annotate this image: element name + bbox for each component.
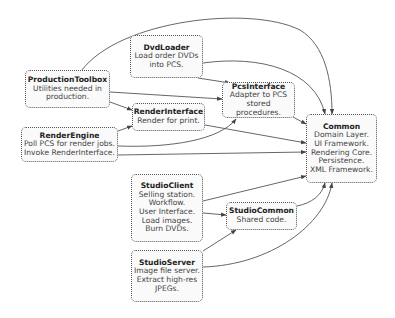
node-studioclient: StudioClient Selling station. Workflow. …	[131, 174, 203, 242]
node-desc-line: Shared code.	[227, 216, 296, 225]
node-desc-line: Burn DVDs.	[132, 225, 202, 234]
edge-studioclient-common	[203, 176, 306, 201]
edge-renderengine-renderinterface	[118, 126, 132, 131]
node-desc-line: into PCS.	[131, 61, 202, 70]
node-desc-line: stored procedures.	[223, 100, 294, 117]
edge-studiocommon-common	[297, 183, 325, 206]
node-pcsinterface: PcsInterface Adapter to PCS stored proce…	[222, 82, 295, 118]
node-studiocommon: StudioCommon Shared code.	[226, 202, 297, 230]
node-desc-line: XML Framework.	[307, 166, 376, 175]
node-desc-line: Invoke RenderInterface.	[22, 149, 117, 158]
node-dvdloader: DvdLoader Load order DVDs into PCS.	[130, 35, 203, 78]
node-productiontoolbox: ProductionToolbox Utilities needed in pr…	[25, 70, 110, 108]
node-renderengine: RenderEngine Poll PCS for render jobs. I…	[21, 127, 118, 162]
edge-studioserver-studiocommon	[203, 230, 236, 251]
edge-productiontoolbox-renderinterface	[110, 102, 132, 110]
edge-renderinterface-common	[205, 125, 306, 143]
node-studioserver: StudioServer Image file server. Extract …	[131, 250, 203, 302]
node-desc-line: JPEGs.	[132, 285, 202, 294]
edge-studioclient-studiocommon	[203, 213, 226, 215]
edge-productiontoolbox-pcsinterface	[110, 92, 222, 99]
node-common: Common Domain Layer. UI Framework. Rende…	[306, 114, 377, 183]
node-renderinterface: RenderInterface Render for print.	[132, 103, 205, 131]
node-desc-line: production.	[26, 93, 109, 102]
edge-pcsinterface-common	[293, 117, 306, 124]
node-desc-line: Render for print.	[133, 117, 204, 126]
edge-renderengine-common	[118, 152, 306, 155]
